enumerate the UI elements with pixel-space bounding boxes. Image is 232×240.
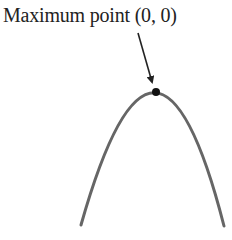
arrow-icon xyxy=(138,33,152,82)
diagram: Maximum point (0, 0) xyxy=(0,0,232,240)
parabola-curve xyxy=(81,93,224,226)
parabola-figure xyxy=(0,0,232,240)
maximum-point-dot xyxy=(152,88,160,96)
